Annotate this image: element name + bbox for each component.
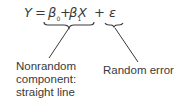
- random-error-label: Random error: [103, 64, 174, 77]
- pointer-line-right: [115, 28, 138, 62]
- pointer-line-left: [49, 28, 69, 58]
- label-line-1: Random error: [103, 64, 174, 77]
- label-line-3: straight line: [16, 86, 76, 99]
- label-line-1: Nonrandom: [16, 60, 76, 73]
- underbrace-nonrandom-icon: [44, 22, 94, 28]
- label-line-2: component:: [16, 73, 76, 86]
- underbrace-error-icon: [105, 23, 123, 27]
- nonrandom-component-label: Nonrandom component: straight line: [16, 60, 76, 99]
